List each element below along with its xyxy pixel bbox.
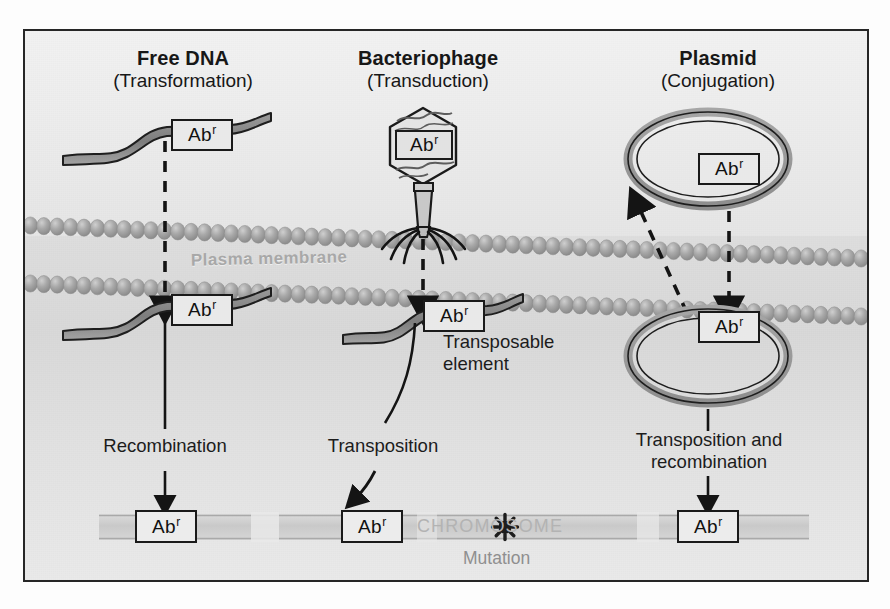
- gene-box-chromosome-right: Abr: [677, 510, 739, 543]
- gene-box-transposable-element: Abr: [423, 300, 485, 332]
- gene-box-text: Ab: [715, 316, 739, 338]
- gene-box-text: Ab: [715, 158, 739, 180]
- gene-box-text: Ab: [152, 516, 176, 538]
- gene-box-chromosome-left: Abr: [135, 510, 197, 543]
- mutation-label: Mutation: [463, 548, 530, 569]
- column-title-bacteriophage-line2: (Transduction): [303, 70, 553, 92]
- transposition-and-recombination-label: Transposition and recombination: [603, 429, 815, 473]
- transposition-arrow-lower: [355, 471, 375, 499]
- gene-box-text: Ab: [440, 305, 464, 327]
- column-title-free-dna-line2: (Transformation): [53, 70, 313, 92]
- gene-box-free-dna-outside: Abr: [171, 119, 233, 151]
- transposition-label: Transposition: [293, 435, 473, 457]
- column-title-bacteriophage: Bacteriophage (Transduction): [303, 47, 553, 92]
- recombination-label: Recombination: [67, 435, 263, 457]
- column-title-plasmid: Plasmid (Conjugation): [593, 47, 843, 92]
- diagram-figure: Free DNA (Transformation) Bacteriophage …: [0, 0, 890, 609]
- gene-box-plasmid-outside: Abr: [698, 153, 760, 185]
- gene-box-text: Ab: [188, 299, 212, 321]
- gene-box-text: Ab: [694, 516, 718, 538]
- transposable-element-label: Transposable element: [443, 331, 613, 375]
- gene-box-free-dna-inside: Abr: [171, 294, 233, 326]
- diagram-frame: Free DNA (Transformation) Bacteriophage …: [23, 29, 869, 582]
- column-title-plasmid-line2: (Conjugation): [593, 70, 843, 92]
- gene-box-phage-capsid: Abr: [395, 130, 453, 160]
- gene-box-text: Ab: [358, 516, 382, 538]
- gene-box-chromosome-middle: Abr: [341, 510, 403, 543]
- column-title-plasmid-line1: Plasmid: [593, 47, 843, 70]
- chromosome-label: CHROMOSOME: [417, 516, 563, 537]
- column-title-free-dna-line1: Free DNA: [53, 47, 313, 70]
- gene-box-text: Ab: [410, 134, 434, 156]
- gene-box-plasmid-inside: Abr: [698, 311, 760, 343]
- free-dna-strand-outside: [63, 113, 271, 165]
- column-title-free-dna: Free DNA (Transformation): [53, 47, 313, 92]
- gene-box-text: Ab: [188, 124, 212, 146]
- plasma-membrane-label: Plasma membrane: [191, 247, 348, 270]
- column-title-bacteriophage-line1: Bacteriophage: [303, 47, 553, 70]
